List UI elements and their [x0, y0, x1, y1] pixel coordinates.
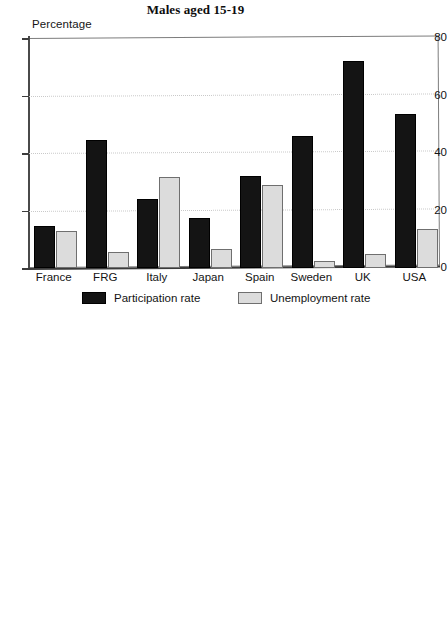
bar-unemployment	[314, 261, 335, 268]
bar-group	[185, 38, 232, 268]
category-label: USA	[389, 271, 441, 283]
bar-unemployment	[365, 254, 386, 268]
category-label: Spain	[234, 271, 286, 283]
legend-swatch-unemployment-icon	[238, 292, 262, 304]
bar-participation	[34, 226, 55, 268]
bar-participation	[86, 140, 107, 268]
bar-unemployment	[108, 252, 129, 268]
chart-males-aged-15-19: Males aged 15-19 Percentage 020406080 Fr…	[0, 0, 447, 318]
bar-participation	[240, 176, 261, 268]
legend-item-participation-males: Participation rate	[82, 292, 200, 304]
category-label: FRG	[80, 271, 132, 283]
legend-males: Participation rate Unemployment rate	[0, 292, 447, 312]
bar-participation	[292, 136, 313, 268]
bar-group	[30, 38, 77, 268]
bars-layer-males	[28, 38, 440, 268]
category-labels-males: FranceFRGItalyJapanSpainSwedenUKUSA	[28, 271, 440, 289]
bar-participation	[343, 61, 364, 268]
category-label: UK	[337, 271, 389, 283]
category-label: France	[28, 271, 80, 283]
bar-unemployment	[417, 229, 438, 268]
bar-group	[288, 38, 335, 268]
bar-group	[236, 38, 283, 268]
category-label: Italy	[131, 271, 183, 283]
category-label: Sweden	[286, 271, 338, 283]
bar-group	[133, 38, 180, 268]
bar-unemployment	[159, 177, 180, 268]
bar-unemployment	[211, 249, 232, 268]
bar-group	[391, 38, 438, 268]
bar-unemployment	[56, 231, 77, 268]
bar-group	[339, 38, 386, 268]
y-axis-label-males: Percentage	[32, 18, 92, 30]
bar-participation	[395, 114, 416, 268]
legend-item-unemployment-males: Unemployment rate	[238, 292, 370, 304]
bar-participation	[137, 199, 158, 268]
legend-swatch-participation-icon	[82, 292, 106, 304]
bar-unemployment	[262, 185, 283, 268]
legend-label-unemployment: Unemployment rate	[270, 292, 370, 304]
category-label: Japan	[183, 271, 235, 283]
bar-group	[82, 38, 129, 268]
bar-participation	[189, 218, 210, 268]
legend-label-participation: Participation rate	[114, 292, 200, 304]
chart-title-males: Males aged 15-19	[0, 2, 419, 18]
